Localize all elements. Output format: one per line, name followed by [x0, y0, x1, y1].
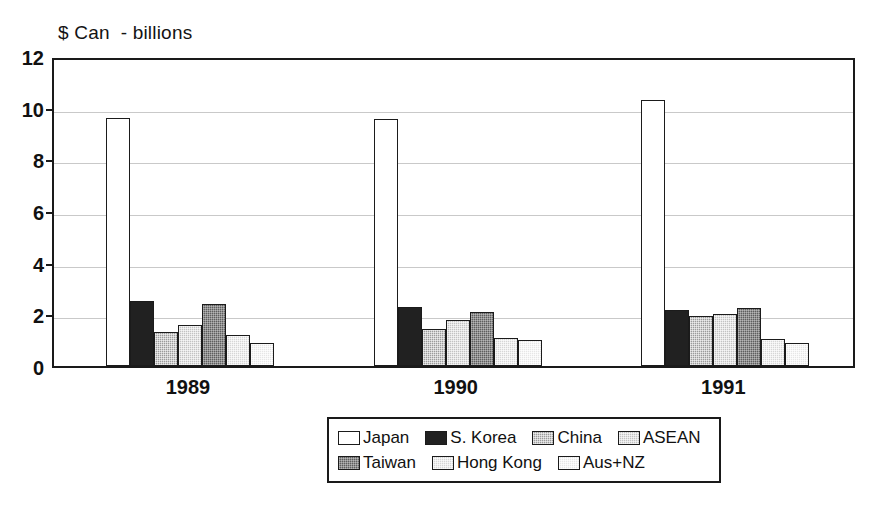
legend-item: Hong Kong	[432, 454, 542, 471]
y-axis-tick-label: 2	[0, 306, 44, 326]
legend-label: ASEAN	[643, 429, 701, 446]
legend-label: China	[557, 429, 601, 446]
bar	[106, 118, 130, 366]
legend-row-1: JapanS. KoreaChinaASEAN	[338, 425, 710, 450]
bar	[374, 119, 398, 366]
y-axis: 024681012	[0, 58, 44, 368]
legend-item: China	[532, 429, 601, 446]
bar	[518, 340, 542, 366]
chart-legend: JapanS. KoreaChinaASEAN TaiwanHong KongA…	[327, 417, 721, 483]
y-axis-tick-label: 6	[0, 203, 44, 223]
x-axis-tick-label: 1989	[166, 376, 211, 398]
y-axis-tick-label: 4	[0, 255, 44, 275]
bar	[250, 343, 274, 366]
y-axis-tick-label: 0	[0, 358, 44, 378]
bar	[470, 312, 494, 366]
x-axis-tick-label: 1991	[701, 376, 746, 398]
bar	[665, 310, 689, 366]
bar	[226, 335, 250, 366]
bar	[689, 316, 713, 366]
legend-swatch-icon	[338, 456, 360, 470]
x-axis-tick-label: 1990	[433, 376, 478, 398]
bar	[398, 307, 422, 366]
bar	[641, 100, 665, 366]
chart-title: $ Can - billions	[58, 22, 192, 44]
legend-label: Japan	[363, 429, 409, 446]
bar	[761, 339, 785, 366]
legend-item: ASEAN	[618, 429, 701, 446]
bar	[178, 325, 202, 366]
x-axis: 198919901991	[52, 376, 855, 404]
bar	[154, 332, 178, 366]
bar-chart: $ Can - billions 024681012 198919901991 …	[0, 0, 876, 508]
legend-swatch-icon	[425, 431, 447, 445]
legend-label: S. Korea	[450, 429, 516, 446]
y-axis-tick-label: 8	[0, 151, 44, 171]
legend-swatch-icon	[338, 431, 360, 445]
legend-item: Japan	[338, 429, 409, 446]
y-axis-tick-label: 12	[0, 48, 44, 68]
legend-swatch-icon	[618, 431, 640, 445]
plot-area	[52, 58, 855, 368]
bar	[713, 314, 737, 366]
bar	[130, 301, 154, 366]
bar	[202, 304, 226, 366]
legend-swatch-icon	[558, 456, 580, 470]
legend-label: Hong Kong	[457, 454, 542, 471]
bars-layer	[54, 60, 853, 366]
bar	[422, 329, 446, 366]
legend-row-2: TaiwanHong KongAus+NZ	[338, 450, 710, 475]
y-axis-tick-label: 10	[0, 100, 44, 120]
legend-item: S. Korea	[425, 429, 516, 446]
legend-label: Taiwan	[363, 454, 416, 471]
legend-item: Aus+NZ	[558, 454, 645, 471]
bar	[785, 343, 809, 366]
legend-swatch-icon	[532, 431, 554, 445]
bar	[494, 338, 518, 366]
bar	[737, 308, 761, 366]
legend-label: Aus+NZ	[583, 454, 645, 471]
bar	[446, 320, 470, 367]
legend-item: Taiwan	[338, 454, 416, 471]
legend-swatch-icon	[432, 456, 454, 470]
